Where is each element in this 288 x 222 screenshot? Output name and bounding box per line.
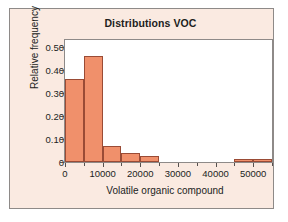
bars-container	[65, 40, 272, 162]
x-tick-mark-minor	[272, 163, 273, 166]
plot-area	[64, 39, 273, 163]
x-tick-mark	[140, 163, 141, 167]
x-axis-title: Volatile organic compound	[50, 185, 280, 196]
figure: Distributions VOC Relative frequency 00.…	[0, 0, 288, 222]
x-tick-mark-minor	[121, 163, 122, 166]
x-tick-mark-minor	[84, 163, 85, 166]
histogram-bar	[84, 56, 103, 162]
histogram-bar	[65, 79, 84, 162]
histogram-bar	[234, 159, 253, 162]
x-tick-mark-minor	[197, 163, 198, 166]
histogram-bar	[140, 156, 159, 162]
histogram-bar	[103, 146, 122, 162]
x-tick-mark-minor	[234, 163, 235, 166]
chart-title: Distributions VOC	[10, 17, 273, 29]
x-tick-label: 50000	[228, 168, 278, 179]
histogram-bar	[253, 159, 272, 162]
x-tick-mark	[216, 163, 217, 167]
chart-panel: Distributions VOC Relative frequency 00.…	[9, 8, 274, 209]
x-axis: 01000020000300004000050000	[64, 163, 273, 185]
x-tick-mark	[178, 163, 179, 167]
x-tick-mark	[103, 163, 104, 167]
histogram-bar	[121, 153, 140, 162]
x-tick-mark	[253, 163, 254, 167]
x-tick-mark-minor	[159, 163, 160, 166]
y-axis: 00.100.200.300.400.50	[24, 39, 64, 163]
x-tick-mark	[65, 163, 66, 167]
